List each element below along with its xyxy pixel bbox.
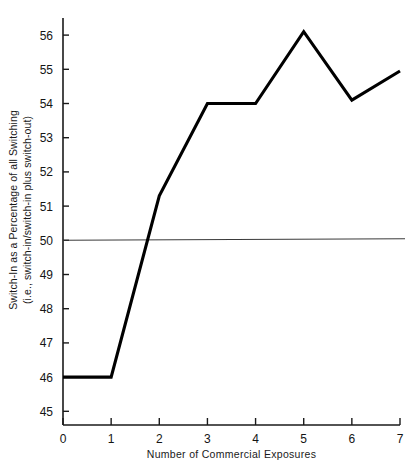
x-axis-title-text: Number of Commercial Exposures bbox=[101, 448, 316, 460]
y-axis-tick-label: 49 bbox=[40, 268, 54, 282]
x-axis-tick-label: 2 bbox=[156, 432, 163, 446]
y-axis-tick-label: 45 bbox=[40, 405, 54, 419]
y-axis-tick-label: 48 bbox=[40, 302, 54, 316]
y-axis-tick-label: 53 bbox=[40, 131, 54, 145]
y-axis-tick-group: 454647484950515253545556 bbox=[40, 29, 69, 419]
y-axis-tick-label: 47 bbox=[40, 336, 54, 350]
y-axis-tick-label: 55 bbox=[40, 63, 54, 77]
fifty-percent-reference-line bbox=[63, 239, 405, 241]
x-axis-tick-label: 7 bbox=[397, 432, 404, 446]
x-axis-title: Number of Commercial Exposures bbox=[0, 448, 417, 460]
x-axis-tick-label: 1 bbox=[108, 432, 115, 446]
y-axis-tick-label: 51 bbox=[40, 200, 54, 214]
y-axis-tick-label: 56 bbox=[40, 29, 54, 43]
chart-figure: Switch-In as a Percentage of all Switchi… bbox=[0, 0, 417, 470]
y-axis-tick-label: 54 bbox=[40, 97, 54, 111]
x-axis-tick-label: 4 bbox=[252, 432, 259, 446]
x-axis-tick-label: 3 bbox=[204, 432, 211, 446]
y-axis-tick-label: 46 bbox=[40, 371, 54, 385]
x-axis-tick-label: 5 bbox=[300, 432, 307, 446]
x-axis-tick-label: 0 bbox=[60, 432, 67, 446]
y-axis-tick-label: 50 bbox=[40, 234, 54, 248]
x-axis-tick-group: 01234567 bbox=[60, 418, 404, 446]
line-chart-plot: 454647484950515253545556 01234567 bbox=[0, 0, 417, 470]
x-axis-tick-label: 6 bbox=[349, 432, 356, 446]
data-series-line bbox=[63, 32, 400, 377]
y-axis-tick-label: 52 bbox=[40, 165, 54, 179]
